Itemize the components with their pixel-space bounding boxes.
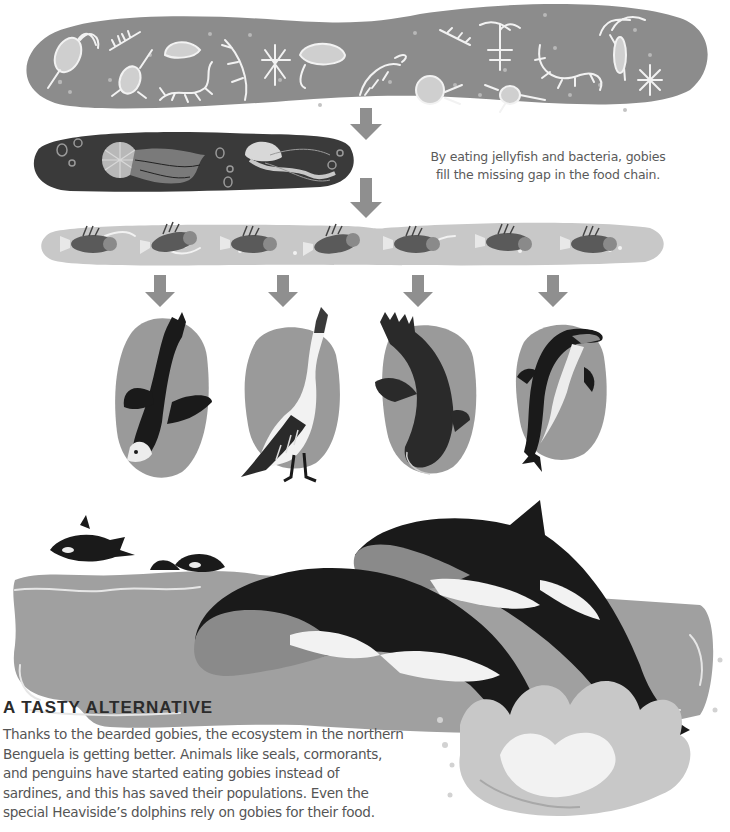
- body-line: special Heaviside’s dolphins rely on gob…: [3, 803, 423, 823]
- penguin-illustration: [112, 312, 217, 482]
- section-body: Thanks to the bearded gobies, the ecosys…: [3, 725, 423, 823]
- body-line: Thanks to the bearded gobies, the ecosys…: [3, 725, 423, 745]
- arrow-down-icon: [145, 275, 175, 307]
- section-heading: A TASTY ALTERNATIVE: [3, 698, 213, 718]
- plankton-band: [0, 0, 730, 115]
- body-line: and penguins have started eating gobies …: [3, 764, 423, 784]
- gobies-band: [40, 218, 670, 268]
- arrow-down-icon: [350, 178, 382, 218]
- arrow-down-icon: [538, 275, 568, 307]
- body-line: Benguela is getting better. Animals like…: [3, 745, 423, 765]
- seal-illustration: [375, 312, 485, 482]
- caption-line-2: fill the missing gap in the food chain.: [398, 166, 698, 184]
- cormorant-illustration: [236, 305, 351, 483]
- small-orca-icon: [50, 515, 135, 561]
- heavisides-dolphin-illustration: [512, 312, 612, 472]
- food-chain-caption: By eating jellyfish and bacteria, gobies…: [398, 148, 698, 184]
- arrow-down-icon: [403, 275, 433, 307]
- arrow-down-icon: [268, 275, 298, 307]
- body-line: sardines, and this has saved their popul…: [3, 784, 423, 804]
- caption-line-1: By eating jellyfish and bacteria, gobies: [398, 148, 698, 166]
- jellyfish-band: [30, 125, 365, 195]
